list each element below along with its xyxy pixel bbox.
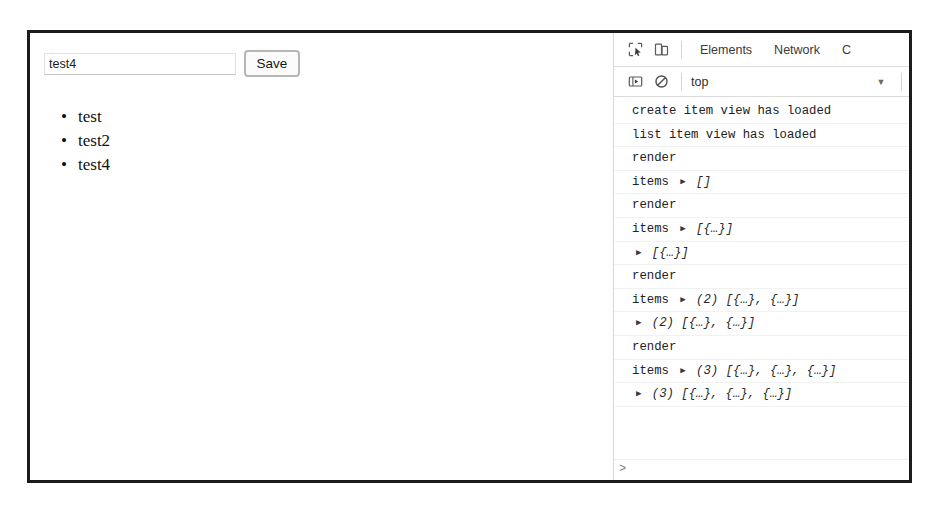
- console-toolbar-divider-right: [901, 73, 902, 91]
- console-object-value[interactable]: [{…}]: [696, 222, 733, 236]
- bullet-icon: •: [61, 105, 67, 129]
- expand-triangle-icon[interactable]: ▶: [632, 242, 644, 266]
- browser-window-frame: Save • test • test2 • test4: [27, 30, 912, 483]
- expand-triangle-icon[interactable]: ▶: [676, 171, 688, 195]
- console-input-prompt[interactable]: >: [614, 459, 909, 480]
- expand-triangle-icon[interactable]: ▶: [676, 289, 688, 313]
- console-message-text: items: [632, 222, 669, 236]
- console-object-value[interactable]: (3) [{…}, {…}, {…}]: [696, 364, 836, 378]
- expand-triangle-icon[interactable]: ▶: [676, 360, 688, 384]
- console-row[interactable]: items ▶ []: [614, 171, 909, 195]
- screenshot-root: Save • test • test2 • test4: [0, 0, 938, 513]
- list-item: • test4: [78, 153, 110, 177]
- tab-network[interactable]: Network: [763, 34, 831, 66]
- tab-console[interactable]: C: [831, 34, 862, 66]
- console-object-value[interactable]: []: [696, 175, 711, 189]
- bullet-icon: •: [61, 129, 67, 153]
- devtools-panel: Elements Network C: [614, 33, 909, 480]
- console-object-value[interactable]: (3) [{…}, {…}, {…}]: [652, 387, 792, 401]
- console-row[interactable]: create item view has loaded: [614, 100, 909, 124]
- console-message-text: render: [632, 340, 676, 354]
- console-row[interactable]: items ▶ (2) [{…}, {…}]: [614, 289, 909, 313]
- web-page-pane: Save • test • test2 • test4: [30, 33, 614, 480]
- expand-triangle-icon[interactable]: ▶: [632, 383, 644, 407]
- save-button[interactable]: Save: [244, 50, 300, 77]
- console-row[interactable]: ▶ (3) [{…}, {…}, {…}]: [614, 383, 909, 407]
- console-object-value[interactable]: [{…}]: [652, 246, 689, 260]
- execution-context-select[interactable]: top: [691, 75, 708, 89]
- inspect-element-icon[interactable]: [622, 37, 648, 63]
- console-message-text: items: [632, 293, 669, 307]
- list-item-label: test4: [78, 155, 110, 174]
- console-row[interactable]: items ▶ (3) [{…}, {…}, {…}]: [614, 360, 909, 384]
- console-message-text: items: [632, 364, 669, 378]
- console-message-text: create item view has loaded: [632, 104, 831, 118]
- console-row[interactable]: render: [614, 147, 909, 171]
- console-message-text: render: [632, 198, 676, 212]
- console-toolbar-divider: [681, 73, 682, 91]
- console-row[interactable]: ▶ (2) [{…}, {…}]: [614, 312, 909, 336]
- list-item-label: test2: [78, 131, 110, 150]
- console-row[interactable]: render: [614, 265, 909, 289]
- expand-triangle-icon[interactable]: ▶: [632, 312, 644, 336]
- console-row[interactable]: items ▶ [{…}]: [614, 218, 909, 242]
- console-row[interactable]: render: [614, 194, 909, 218]
- devtools-tabbar: Elements Network C: [614, 33, 909, 67]
- clear-console-icon[interactable]: [648, 69, 674, 95]
- console-object-value[interactable]: (2) [{…}, {…}]: [652, 316, 755, 330]
- console-message-text: items: [632, 175, 669, 189]
- toolbar-divider: [681, 41, 682, 59]
- expand-triangle-icon[interactable]: ▶: [676, 218, 688, 242]
- console-message-text: render: [632, 151, 676, 165]
- console-row[interactable]: render: [614, 336, 909, 360]
- console-row[interactable]: list item view has loaded: [614, 124, 909, 148]
- create-item-form: Save: [44, 50, 299, 80]
- console-message-list[interactable]: create item view has loaded list item vi…: [614, 97, 909, 459]
- console-toolbar: top ▼: [614, 67, 909, 97]
- console-row[interactable]: ▶ [{…}]: [614, 242, 909, 266]
- console-message-text: list item view has loaded: [632, 128, 816, 142]
- list-item-label: test: [78, 107, 102, 126]
- console-object-value[interactable]: (2) [{…}, {…}]: [696, 293, 799, 307]
- console-sidebar-icon[interactable]: [622, 69, 648, 95]
- bullet-icon: •: [61, 153, 67, 177]
- console-message-text: render: [632, 269, 676, 283]
- tab-elements[interactable]: Elements: [689, 34, 763, 66]
- list-item: • test: [78, 105, 110, 129]
- item-title-input[interactable]: [44, 53, 236, 75]
- item-list: • test • test2 • test4: [30, 105, 110, 177]
- list-item: • test2: [78, 129, 110, 153]
- chevron-down-icon[interactable]: ▼: [874, 77, 888, 87]
- device-toolbar-icon[interactable]: [648, 37, 674, 63]
